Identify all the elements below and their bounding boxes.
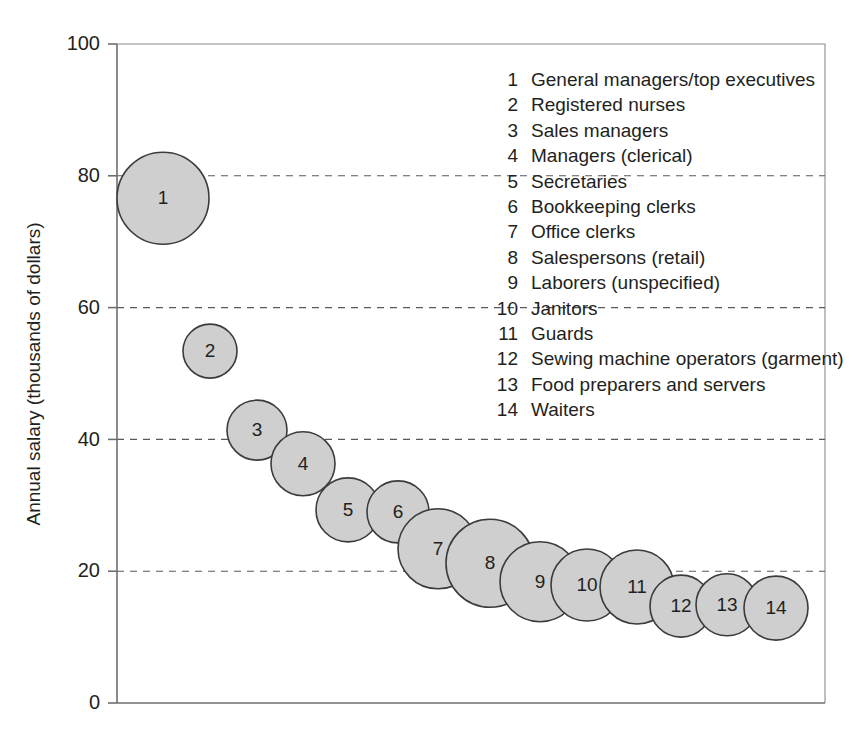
legend-label-5: Secretaries (531, 171, 627, 192)
bubble-label-10: 10 (576, 574, 597, 595)
legend-number-1: 1 (507, 69, 518, 90)
legend-label-8: Salespersons (retail) (531, 247, 705, 268)
bubble-1: 11. General managers/top executives — $7… (117, 152, 209, 244)
legend-number-9: 9 (507, 272, 518, 293)
bubble-label-6: 6 (393, 501, 404, 522)
bubble-label-3: 3 (252, 419, 263, 440)
bubble-label-9: 9 (535, 571, 546, 592)
bubble-chart: 020406080100 Annual salary (thousands of… (0, 0, 863, 741)
legend-label-4: Managers (clerical) (531, 145, 693, 166)
bubble-14: 1414. Waiters — $14.4k (744, 576, 808, 640)
legend-label-10: Janitors (531, 298, 598, 319)
legend-label-12: Sewing machine operators (garment) (531, 348, 844, 369)
legend-number-8: 8 (507, 247, 518, 268)
legend-label-7: Office clerks (531, 221, 635, 242)
legend-number-7: 7 (507, 221, 518, 242)
bubble-label-2: 2 (205, 340, 216, 361)
legend-number-6: 6 (507, 196, 518, 217)
legend-number-13: 13 (497, 374, 518, 395)
legend-label-9: Laborers (unspecified) (531, 272, 720, 293)
legend-number-11: 11 (498, 323, 518, 344)
y-tick-label-100: 100 (67, 32, 100, 54)
legend-number-4: 4 (507, 145, 518, 166)
y-tick-label-80: 80 (78, 164, 100, 186)
bubble-label-5: 5 (343, 499, 354, 520)
bubble-label-12: 12 (670, 595, 691, 616)
legend-number-3: 3 (507, 120, 518, 141)
bubble-label-7: 7 (433, 538, 444, 559)
legend-label-3: Sales managers (531, 120, 668, 141)
legend-label-13: Food preparers and servers (531, 374, 765, 395)
legend-label-11: Guards (531, 323, 593, 344)
bubble-2: 22. Registered nurses — $53.4k (183, 324, 237, 378)
bubble-label-13: 13 (716, 594, 737, 615)
bubble-label-14: 14 (765, 597, 787, 618)
legend-number-10: 10 (497, 298, 518, 319)
legend-label-1: General managers/top executives (531, 69, 815, 90)
chart-figure: 020406080100 Annual salary (thousands of… (0, 0, 863, 741)
legend-label-2: Registered nurses (531, 94, 685, 115)
bubble-label-11: 11 (627, 576, 647, 597)
legend-number-5: 5 (507, 171, 518, 192)
legend-number-12: 12 (497, 348, 518, 369)
bubble-label-4: 4 (298, 453, 309, 474)
legend-number-14: 14 (497, 399, 519, 420)
y-axis-title: Annual salary (thousands of dollars) (23, 222, 44, 525)
y-tick-label-20: 20 (78, 559, 100, 581)
y-tick-label-40: 40 (78, 428, 100, 450)
bubble-label-8: 8 (485, 552, 496, 573)
y-tick-label-0: 0 (89, 691, 100, 713)
legend: 1General managers/top executives2Registe… (497, 69, 844, 420)
bubble-label-1: 1 (158, 187, 169, 208)
legend-label-6: Bookkeeping clerks (531, 196, 696, 217)
legend-label-14: Waiters (531, 399, 595, 420)
y-tick-label-60: 60 (78, 296, 100, 318)
bubble-series: 11. General managers/top executives — $7… (117, 152, 808, 640)
legend-number-2: 2 (507, 94, 518, 115)
